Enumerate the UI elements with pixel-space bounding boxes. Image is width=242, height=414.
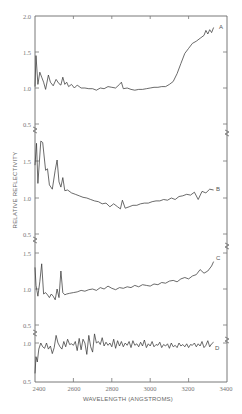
y-tick-labels: 2.0 1.5 1.0 0.5 1.5 1.0 0.5 1.5 1.0 0.5 … (23, 13, 31, 385)
tick-label-b-1.0: 1.0 (23, 195, 31, 202)
tick-label-c-1.5: 1.5 (23, 250, 31, 257)
curve-a (35, 28, 214, 91)
bottom-ticks (73, 378, 188, 382)
curve-d (35, 334, 214, 374)
x-axis-title: WAVELENGTH (ANGSTROMS) (83, 396, 173, 402)
x-tick-labels: 2400 2600 2800 3000 3200 3400 (33, 385, 233, 392)
tick-label-a-1.5: 1.5 (23, 49, 31, 56)
x-tick-3400: 3400 (220, 385, 233, 392)
curve-b (35, 141, 214, 209)
series-curves (35, 28, 214, 374)
x-tick-3000: 3000 (144, 385, 157, 392)
x-tick-3200: 3200 (182, 385, 195, 392)
series-label-c: C (216, 255, 221, 261)
tick-label-d-0.5: 0.5 (23, 378, 31, 385)
x-tick-2800: 2800 (106, 385, 119, 392)
x-tick-2600: 2600 (68, 385, 81, 392)
tick-label-b-1.5: 1.5 (23, 158, 31, 165)
tick-label-a-1.0: 1.0 (23, 85, 31, 92)
x-tick-2400: 2400 (33, 385, 46, 392)
left-y-ticks (35, 52, 39, 343)
series-label-a: A (219, 24, 223, 30)
axis-break-marks (33, 127, 229, 343)
series-label-b: B (216, 186, 220, 192)
curve-c (35, 262, 214, 300)
right-y-ticks (223, 52, 227, 343)
y-axis-title: RELATIVE REFLECTIVITY (12, 152, 18, 229)
reflectivity-chart: 2.0 1.5 1.0 0.5 1.5 1.0 0.5 1.5 1.0 0.5 … (0, 0, 242, 414)
tick-label-a-2.0: 2.0 (23, 13, 31, 20)
tick-label-b-0.5: 0.5 (23, 231, 31, 238)
tick-label-d-1.0: 1.0 (23, 340, 31, 347)
tick-label-c-0.5: 0.5 (23, 322, 31, 329)
tick-label-a-0.5: 0.5 (23, 121, 31, 128)
tick-label-c-1.0: 1.0 (23, 286, 31, 293)
series-label-d: D (215, 345, 220, 351)
